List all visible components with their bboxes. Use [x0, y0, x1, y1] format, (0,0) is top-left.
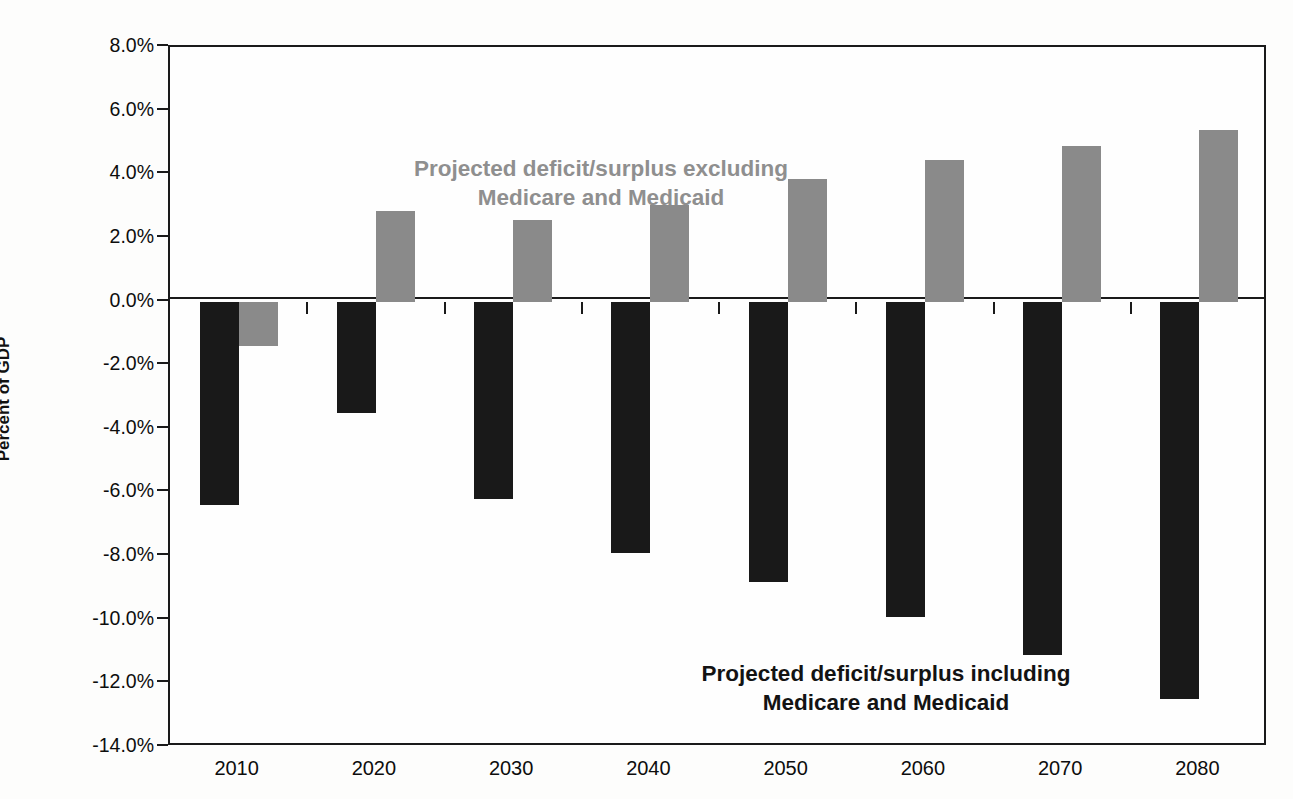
bar-2020-including: [337, 302, 376, 413]
y-tick-mark: [157, 553, 168, 555]
bar-2060-excluding: [925, 160, 964, 302]
annotation-excluding-medicare: Projected deficit/surplus excluding Medi…: [366, 155, 836, 213]
y-tick-mark: [157, 426, 168, 428]
x-axis-label-2010: 2010: [214, 757, 259, 780]
x-axis-label-2080: 2080: [1175, 757, 1220, 780]
x-axis-label-2020: 2020: [352, 757, 397, 780]
y-tick-mark: [157, 362, 168, 364]
bar-2020-excluding: [376, 211, 415, 302]
x-axis-label-2070: 2070: [1038, 757, 1083, 780]
y-tick-label: -14.0%: [92, 734, 154, 757]
annotation-including-medicare: Projected deficit/surplus including Medi…: [606, 660, 1166, 718]
bar-chart: Percent of GDP 8.0%6.0%4.0%2.0%0.0%-2.0%…: [0, 0, 1293, 799]
y-tick-label: 0.0%: [110, 288, 154, 311]
x-tick-mark: [855, 302, 857, 314]
x-axis-label-2040: 2040: [626, 757, 671, 780]
y-tick-label: -8.0%: [103, 543, 154, 566]
y-tick-mark: [157, 617, 168, 619]
bar-2040-excluding: [650, 205, 689, 302]
x-axis-label-2060: 2060: [901, 757, 946, 780]
y-tick-mark: [157, 171, 168, 173]
y-tick-mark: [157, 489, 168, 491]
x-tick-mark: [1130, 302, 1132, 314]
x-axis-label-2030: 2030: [489, 757, 534, 780]
bar-2080-excluding: [1199, 130, 1238, 302]
plot-area: Projected deficit/surplus excluding Medi…: [168, 45, 1266, 745]
bar-2050-including: [749, 302, 788, 582]
y-tick-mark: [157, 299, 168, 301]
bar-2080-including: [1160, 302, 1199, 700]
x-axis-label-2050: 2050: [763, 757, 808, 780]
bar-2070-including: [1023, 302, 1062, 655]
y-tick-mark: [157, 744, 168, 746]
bar-2010-including: [200, 302, 239, 506]
x-tick-mark: [993, 302, 995, 314]
y-tick-label: -10.0%: [92, 606, 154, 629]
bar-2030-excluding: [513, 220, 552, 301]
plot-inner: Projected deficit/surplus excluding Medi…: [170, 47, 1264, 743]
y-tick-label: -4.0%: [103, 415, 154, 438]
y-tick-label: -12.0%: [92, 670, 154, 693]
y-tick-label: 8.0%: [110, 34, 154, 57]
bar-2010-excluding: [239, 302, 278, 347]
y-tick-label: 4.0%: [110, 161, 154, 184]
y-axis-ticks: 8.0%6.0%4.0%2.0%0.0%-2.0%-4.0%-6.0%-8.0%…: [0, 0, 168, 700]
y-tick-mark: [157, 680, 168, 682]
y-tick-mark: [157, 108, 168, 110]
y-tick-label: 6.0%: [110, 97, 154, 120]
bar-2040-including: [611, 302, 650, 553]
y-tick-label: -2.0%: [103, 352, 154, 375]
y-tick-label: -6.0%: [103, 479, 154, 502]
x-tick-mark: [444, 302, 446, 314]
x-tick-mark: [581, 302, 583, 314]
bar-2030-including: [474, 302, 513, 499]
x-tick-mark: [718, 302, 720, 314]
x-tick-mark: [306, 302, 308, 314]
y-tick-label: 2.0%: [110, 224, 154, 247]
bar-2060-including: [886, 302, 925, 617]
y-tick-mark: [157, 44, 168, 46]
bar-2070-excluding: [1062, 146, 1101, 302]
y-tick-mark: [157, 235, 168, 237]
